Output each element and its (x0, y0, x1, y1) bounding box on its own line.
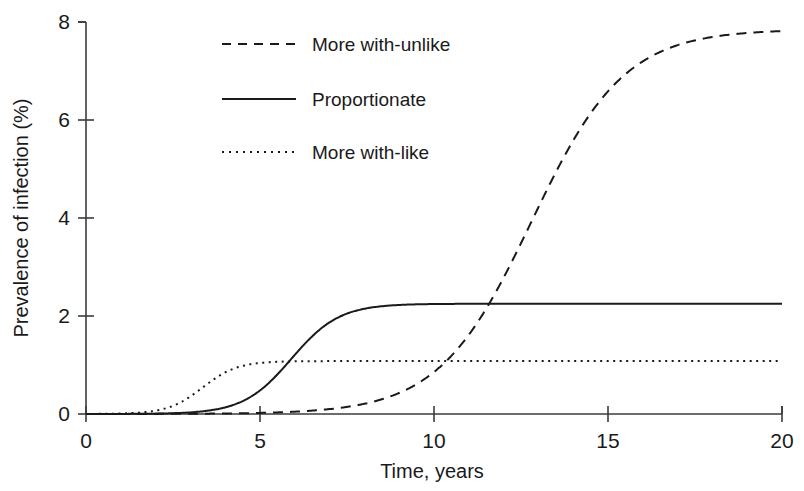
legend-label-proportionate: Proportionate (312, 89, 426, 110)
x-tick-label-15: 15 (596, 429, 619, 452)
y-tick-label-4: 4 (58, 206, 70, 229)
figure-container: 0 2 4 6 8 0 5 10 15 20 Time, years Preva… (0, 0, 804, 491)
caption-edge (10, 485, 510, 491)
legend-label-more-with-unlike: More with-unlike (312, 34, 450, 55)
series-line-more-with-unlike (86, 31, 782, 414)
x-tick-label-10: 10 (422, 429, 445, 452)
x-tick-labels: 0 5 10 15 20 (80, 429, 794, 452)
legend: More with-unlike Proportionate More with… (222, 34, 450, 163)
x-axis-title: Time, years (380, 460, 484, 482)
y-tick-label-0: 0 (58, 402, 70, 425)
legend-label-more-with-like: More with-like (312, 142, 429, 163)
y-axis-title: Prevalence of infection (%) (10, 98, 32, 337)
y-tick-label-8: 8 (58, 10, 70, 33)
y-tick-label-6: 6 (58, 108, 70, 131)
y-tick-labels: 0 2 4 6 8 (58, 10, 70, 425)
x-tick-label-0: 0 (80, 429, 92, 452)
chart-svg: 0 2 4 6 8 0 5 10 15 20 Time, years Preva… (0, 0, 804, 491)
series-group (86, 31, 782, 414)
series-line-proportionate (86, 304, 782, 414)
x-tick-label-20: 20 (770, 429, 793, 452)
x-tick-label-5: 5 (254, 429, 266, 452)
y-tick-label-2: 2 (58, 304, 70, 327)
